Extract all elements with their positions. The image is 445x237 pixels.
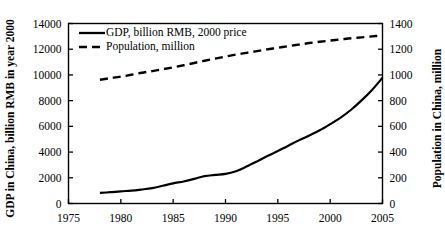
y-axis-right-tick-label: 200 (390, 172, 407, 184)
x-axis-tick-label: 2000 (300, 212, 360, 224)
y-axis-right-tick-label: 400 (390, 146, 407, 158)
legend-label-population: Population, million (106, 40, 195, 52)
y-axis-left-tick-label: 2000 (4, 172, 62, 184)
y-axis-left-tick-label: 6000 (4, 120, 62, 132)
y-axis-left-tick-label: 10000 (4, 69, 62, 81)
x-axis-tick-label: 1990 (196, 212, 256, 224)
y-axis-right-tick-label: 600 (390, 120, 407, 132)
y-axis-left-tick-label: 14000 (4, 18, 62, 30)
y-axis-right-tick-label: 1000 (390, 69, 413, 81)
y-axis-left-tick-label: 0 (4, 198, 62, 210)
x-axis-tick-label: 2005 (353, 212, 413, 224)
y-axis-left-tick-label: 12000 (4, 43, 62, 55)
y-axis-right-tick-label: 800 (390, 95, 407, 107)
y-axis-left-tick-label: 4000 (4, 146, 62, 158)
x-axis-tick-label: 1975 (39, 212, 99, 224)
x-axis-tick-label: 1985 (143, 212, 203, 224)
y-axis-right-tick-label: 1200 (390, 43, 413, 55)
x-axis-tick-label: 1980 (91, 212, 151, 224)
y-axis-right-tick-label: 1400 (390, 18, 413, 30)
y-axis-right-tick-label: 0 (390, 198, 396, 210)
x-axis-tick-label: 1995 (248, 212, 308, 224)
y-axis-left-tick-label: 8000 (4, 95, 62, 107)
series-line-gdp (100, 78, 383, 193)
chart-figure: GDP in China, billion RMB in year 2000 P… (0, 0, 445, 237)
legend-label-gdp: GDP, billion RMB, 2000 price (106, 26, 247, 38)
